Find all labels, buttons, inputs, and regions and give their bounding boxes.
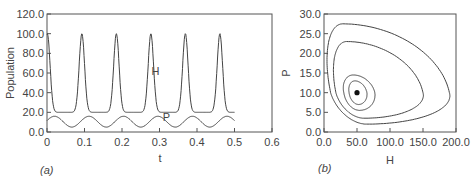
y-tick-label: 10.0	[300, 87, 321, 99]
y-tick-label: 15.0	[300, 67, 321, 79]
x-tick-label: 0.2	[114, 136, 129, 148]
y-tick-label: 120.0	[16, 8, 44, 20]
x-tick-label: 150.0	[409, 136, 437, 148]
x-tick-label: 0	[44, 136, 50, 148]
panel-b-x-ticks: 0.050.0100.0150.0200.0	[316, 128, 469, 148]
figure: 0.020.040.060.080.0100.0120.0 00.10.20.3…	[0, 0, 474, 182]
panel-a-plot-frame	[47, 14, 272, 132]
y-tick-label: 5.0	[306, 106, 321, 118]
panel-a-label: (a)	[40, 164, 54, 176]
series-P-line	[47, 116, 235, 127]
y-tick-label: 80.0	[23, 47, 44, 59]
panel-b-chart: 0.05.010.015.020.025.030.0 0.050.0100.01…	[280, 8, 470, 174]
equilibrium-point	[354, 90, 359, 95]
panel-b-x-axis-label: H	[386, 154, 394, 166]
y-tick-label: 40.0	[23, 87, 44, 99]
panel-b-y-axis-label: P	[280, 69, 292, 76]
panel-b-label: (b)	[318, 162, 332, 174]
x-tick-label: 0.0	[316, 136, 331, 148]
phase-orbits	[327, 24, 450, 124]
panel-a-x-ticks: 00.10.20.30.40.50.6	[44, 128, 280, 148]
y-tick-label: 30.0	[300, 8, 321, 20]
series-P-label: P	[163, 111, 170, 123]
y-tick-label: 25.0	[300, 28, 321, 40]
panel-a-y-ticks: 0.020.040.060.080.0100.0120.0	[16, 8, 51, 138]
orbit-curve	[333, 42, 423, 119]
y-tick-label: 0.0	[29, 126, 44, 138]
x-tick-label: 0.3	[152, 136, 167, 148]
x-tick-label: 100.0	[376, 136, 404, 148]
panel-a-y-axis-label: Population	[4, 47, 16, 99]
series-H-line	[47, 34, 235, 113]
panel-a-chart: 0.020.040.060.080.0100.0120.0 00.10.20.3…	[4, 8, 280, 176]
y-tick-label: 20.0	[23, 106, 44, 118]
x-tick-label: 0.1	[77, 136, 92, 148]
panel-a-x-axis-label: t	[158, 152, 161, 164]
x-tick-label: 0.4	[189, 136, 204, 148]
series-H-label: H	[152, 65, 160, 77]
y-tick-label: 100.0	[16, 28, 44, 40]
x-tick-label: 0.6	[264, 136, 279, 148]
y-tick-label: 60.0	[23, 67, 44, 79]
x-tick-label: 50.0	[346, 136, 367, 148]
x-tick-label: 200.0	[442, 136, 470, 148]
x-tick-label: 0.5	[227, 136, 242, 148]
y-tick-label: 20.0	[300, 47, 321, 59]
